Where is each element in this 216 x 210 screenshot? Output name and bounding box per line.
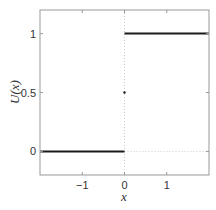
y-tick-label: 0.5 [21, 87, 36, 99]
x-axis-label: x [120, 189, 127, 204]
midpoint-dot [123, 91, 125, 93]
x-tick-label: 1 [164, 179, 170, 191]
x-tick-label: −1 [76, 179, 89, 191]
y-axis-label: U(x) [7, 80, 22, 104]
y-tick-label: 1 [30, 28, 36, 40]
y-axis-ticks: 00.51 [21, 28, 209, 158]
x-axis-ticks: −101 [76, 10, 170, 191]
step-function-chart: −101 00.51 x U(x) [0, 0, 216, 210]
y-tick-label: 0 [30, 145, 36, 157]
guide-lines [125, 10, 210, 175]
